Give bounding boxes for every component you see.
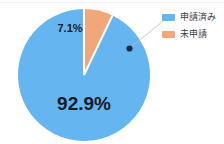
pie-chart-figure: 92.9% 7.1% 申請済み 未申請 — [0, 0, 224, 144]
pie-label-applied: 92.9% — [57, 93, 111, 114]
legend-item-unapplied[interactable]: 未申請 — [162, 28, 222, 41]
pie-label-unapplied: 7.1% — [57, 22, 82, 34]
legend-swatch-unapplied — [162, 31, 175, 38]
legend-label-applied: 申請済み — [180, 12, 216, 23]
chart-legend: 申請済み 未申請 — [162, 11, 222, 45]
legend-item-applied[interactable]: 申請済み — [162, 11, 222, 24]
legend-swatch-applied — [162, 14, 175, 21]
legend-label-unapplied: 未申請 — [180, 29, 207, 40]
callout-dot-icon — [126, 45, 132, 51]
